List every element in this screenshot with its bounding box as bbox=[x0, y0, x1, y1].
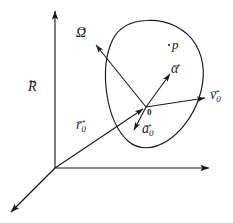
r-subscript: 0 bbox=[81, 124, 85, 134]
omega-vector-label: Ω bbox=[76, 26, 86, 40]
reference-frame-label: R bbox=[28, 80, 37, 94]
figure-canvas bbox=[0, 0, 233, 223]
point-p-label: p bbox=[172, 38, 179, 51]
rigid-body-kinematics-figure: Ω p α v0 a0 r0 R 0 bbox=[0, 0, 233, 223]
alpha-vector-label: α bbox=[171, 62, 178, 76]
r0-vector-label: r0 bbox=[76, 118, 86, 134]
coordinate-axes bbox=[11, 11, 209, 212]
body-origin-label: 0 bbox=[147, 108, 152, 117]
vector-set bbox=[55, 45, 205, 168]
omega-vector bbox=[96, 45, 146, 107]
r0-vector bbox=[55, 109, 143, 168]
a-subscript: 0 bbox=[149, 128, 153, 138]
depth-axis bbox=[11, 168, 55, 212]
alpha-symbol: α bbox=[171, 61, 178, 76]
v0-vector-label: v0 bbox=[210, 88, 221, 104]
omega-symbol: Ω bbox=[76, 25, 86, 40]
R-symbol: R bbox=[28, 79, 37, 94]
a0-vector-label: a0 bbox=[142, 122, 153, 138]
rigid-body-outline bbox=[105, 20, 203, 147]
alpha-vector bbox=[146, 74, 170, 107]
v-subscript: 0 bbox=[216, 94, 220, 104]
point-p-marker bbox=[168, 44, 170, 46]
a-symbol: a bbox=[142, 121, 149, 136]
p-symbol: p bbox=[172, 37, 179, 52]
